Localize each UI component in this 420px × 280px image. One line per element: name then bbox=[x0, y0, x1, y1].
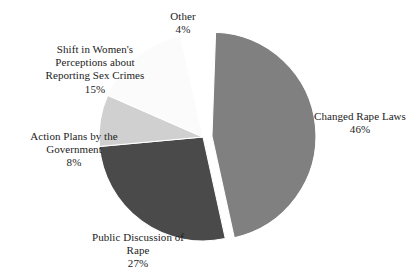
slice-label-shift-value: 15% bbox=[12, 83, 178, 96]
slice-label-public-discussion: Public Discussion of Rape 27% bbox=[62, 231, 214, 271]
slice-label-shift-line3: Reporting Sex Crimes bbox=[12, 69, 178, 82]
slice-label-public-discussion-line1: Public Discussion of bbox=[62, 231, 214, 244]
slice-label-changed-rape-laws: Changed Rape Laws 46% bbox=[300, 110, 420, 136]
slice-label-other-value: 4% bbox=[140, 23, 226, 36]
slice-label-shift-line1: Shift in Women's bbox=[12, 43, 178, 56]
slice-label-changed-laws-line1: Changed Rape Laws bbox=[300, 110, 420, 123]
slice-label-other: Other 4% bbox=[140, 10, 226, 36]
slice-label-action-plans-line1: Action Plans by the bbox=[8, 130, 140, 143]
slice-label-shift-line2: Perceptions about bbox=[12, 56, 178, 69]
pie-chart-figure: Other 4% Shift in Women's Perceptions ab… bbox=[0, 0, 420, 280]
slice-label-action-plans-line2: Government bbox=[8, 143, 140, 156]
slice-label-action-plans-value: 8% bbox=[8, 156, 140, 169]
slice-label-changed-laws-value: 46% bbox=[300, 123, 420, 136]
slice-label-public-discussion-value: 27% bbox=[62, 257, 214, 270]
slice-label-public-discussion-line2: Rape bbox=[62, 244, 214, 257]
slice-label-action-plans: Action Plans by the Government 8% bbox=[8, 130, 140, 170]
slice-label-other-line1: Other bbox=[140, 10, 226, 23]
slice-label-shift-in-womens-perceptions: Shift in Women's Perceptions about Repor… bbox=[12, 43, 178, 96]
